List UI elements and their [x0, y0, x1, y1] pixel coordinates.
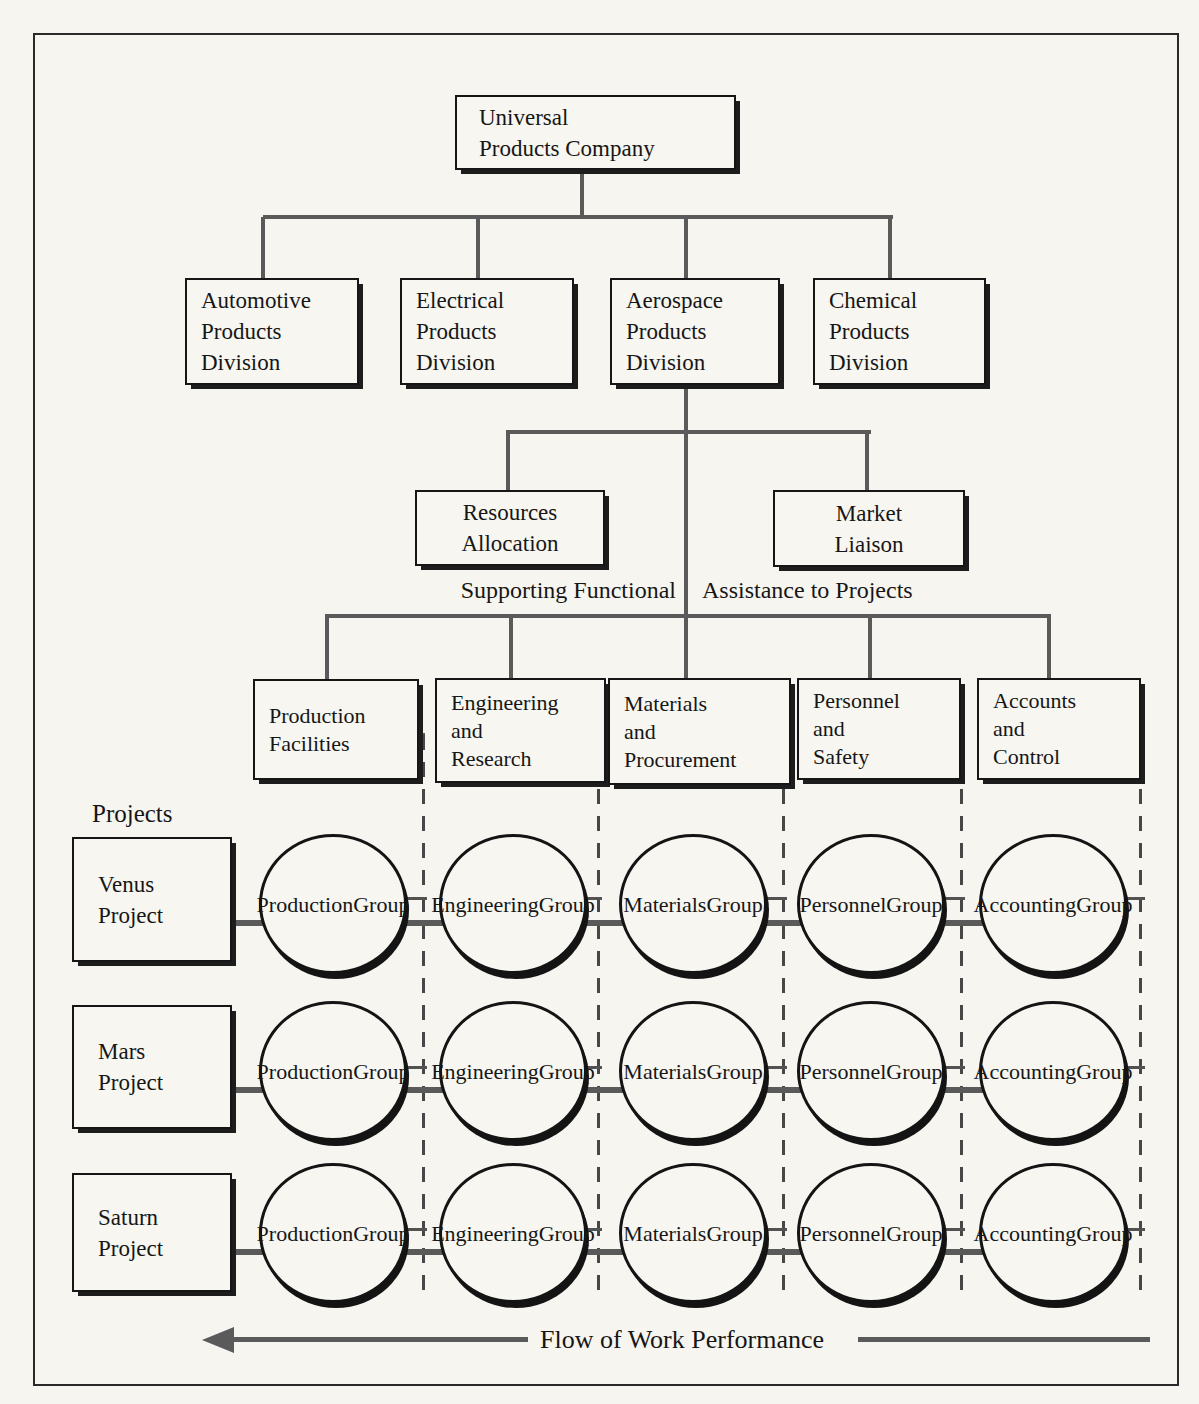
- project-label: Venus: [98, 869, 230, 900]
- group-label: Group: [706, 1059, 762, 1084]
- division-label: Division: [829, 347, 984, 378]
- function-label: Safety: [813, 743, 959, 771]
- function-box-materials-procurement: Materials and Procurement: [608, 678, 791, 785]
- function-box-personnel-safety: Personnel and Safety: [797, 678, 961, 780]
- group-label: Group: [1076, 1059, 1132, 1084]
- group-label: Group: [1076, 1221, 1132, 1246]
- staff-label: Liaison: [775, 529, 963, 560]
- function-label: Accounts: [993, 687, 1139, 715]
- group-label: Engineering: [431, 1221, 539, 1246]
- project-label: Project: [98, 900, 230, 931]
- group-circle-mars-personnel: PersonnelGroup: [797, 1001, 945, 1141]
- authority-dashline-production: [422, 735, 425, 1298]
- group-label: Engineering: [431, 1059, 539, 1084]
- connector-drop-electrical: [476, 217, 480, 281]
- group-label: Engineering: [431, 892, 539, 917]
- group-circle-mars-production: ProductionGroup: [259, 1001, 407, 1141]
- group-circle-mars-accounting: AccountingGroup: [979, 1001, 1127, 1141]
- authority-dashline-personnel: [960, 735, 963, 1298]
- function-label: and: [993, 715, 1139, 743]
- flow-of-work-caption: Flow of Work Performance: [540, 1325, 824, 1355]
- group-label: Materials: [623, 1221, 706, 1246]
- group-label: Group: [886, 1059, 942, 1084]
- function-label: Production: [269, 702, 417, 730]
- group-label: Personnel: [800, 892, 887, 917]
- connector-drop-chemical: [888, 217, 892, 281]
- group-label: Group: [1076, 892, 1132, 917]
- group-label: Group: [886, 1221, 942, 1246]
- function-label: and: [813, 715, 959, 743]
- caption-assistance-to-projects: Assistance to Projects: [702, 577, 913, 604]
- group-label: Group: [353, 892, 409, 917]
- project-box-venus: Venus Project: [72, 837, 232, 962]
- company-label: Universal: [479, 102, 734, 133]
- project-label: Project: [98, 1233, 230, 1264]
- project-box-saturn: Saturn Project: [72, 1173, 232, 1292]
- group-circle-venus-accounting: AccountingGroup: [979, 834, 1127, 974]
- division-label: Electrical: [416, 285, 572, 316]
- projects-heading: Projects: [92, 800, 173, 828]
- staff-label: Resources: [417, 497, 603, 528]
- division-box-aerospace: Aerospace Products Division: [610, 278, 780, 385]
- group-label: Group: [539, 1221, 595, 1246]
- function-box-production-facilities: Production Facilities: [253, 679, 419, 780]
- connector-staff-bus: [506, 430, 871, 434]
- division-label: Products: [416, 316, 572, 347]
- group-label: Accounting: [974, 1059, 1077, 1084]
- group-circle-venus-engineering: EngineeringGroup: [439, 834, 587, 974]
- function-box-accounts-control: Accounts and Control: [977, 678, 1141, 780]
- group-label: Production: [257, 892, 354, 917]
- division-label: Chemical: [829, 285, 984, 316]
- division-box-automotive: Automotive Products Division: [185, 278, 359, 385]
- group-label: Group: [706, 892, 762, 917]
- connector-function-bus: [325, 614, 1051, 618]
- division-label: Division: [626, 347, 778, 378]
- group-circle-venus-production: ProductionGroup: [259, 834, 407, 974]
- group-label: Materials: [623, 892, 706, 917]
- division-label: Division: [416, 347, 572, 378]
- division-box-chemical: Chemical Products Division: [813, 278, 986, 385]
- staff-label: Market: [775, 498, 963, 529]
- connector-drop-automotive: [261, 217, 265, 281]
- group-circle-mars-engineering: EngineeringGroup: [439, 1001, 587, 1141]
- group-circle-saturn-personnel: PersonnelGroup: [797, 1163, 945, 1303]
- group-label: Personnel: [800, 1059, 887, 1084]
- division-label: Products: [829, 316, 984, 347]
- division-label: Division: [201, 347, 357, 378]
- staff-box-market-liaison: Market Liaison: [773, 490, 965, 567]
- group-circle-saturn-production: ProductionGroup: [259, 1163, 407, 1303]
- group-circle-mars-materials: MaterialsGroup: [619, 1001, 767, 1141]
- group-label: Production: [257, 1221, 354, 1246]
- division-box-electrical: Electrical Products Division: [400, 278, 574, 385]
- matrix-org-chart: Universal Products Company Automotive Pr…: [0, 0, 1199, 1404]
- connector-drop-market: [865, 432, 869, 492]
- company-box: Universal Products Company: [455, 95, 736, 170]
- function-label: Facilities: [269, 730, 417, 758]
- group-label: Group: [706, 1221, 762, 1246]
- function-label: Personnel: [813, 687, 959, 715]
- group-label: Accounting: [974, 1221, 1077, 1246]
- connector-company-trunk: [580, 166, 584, 219]
- group-label: Personnel: [800, 1221, 887, 1246]
- company-label: Products Company: [479, 133, 734, 164]
- group-label: Group: [886, 892, 942, 917]
- authority-dashline-engineering: [597, 735, 600, 1298]
- function-label: Materials: [624, 690, 789, 718]
- group-circle-venus-personnel: PersonnelGroup: [797, 834, 945, 974]
- function-label: and: [451, 717, 604, 745]
- function-label: and: [624, 718, 789, 746]
- authority-dashline-accounts: [1139, 735, 1142, 1298]
- group-circle-saturn-engineering: EngineeringGroup: [439, 1163, 587, 1303]
- division-label: Automotive: [201, 285, 357, 316]
- function-label: Research: [451, 745, 604, 773]
- connector-drop-accounts: [1047, 616, 1051, 682]
- connector-aerospace-trunk: [684, 217, 688, 281]
- project-label: Mars: [98, 1036, 230, 1067]
- project-label: Project: [98, 1067, 230, 1098]
- connector-drop-production: [325, 616, 329, 682]
- authority-dashline-materials: [782, 735, 785, 1298]
- project-box-mars: Mars Project: [72, 1005, 232, 1129]
- division-label: Aerospace: [626, 285, 778, 316]
- staff-box-resources-allocation: Resources Allocation: [415, 490, 605, 566]
- staff-label: Allocation: [417, 528, 603, 559]
